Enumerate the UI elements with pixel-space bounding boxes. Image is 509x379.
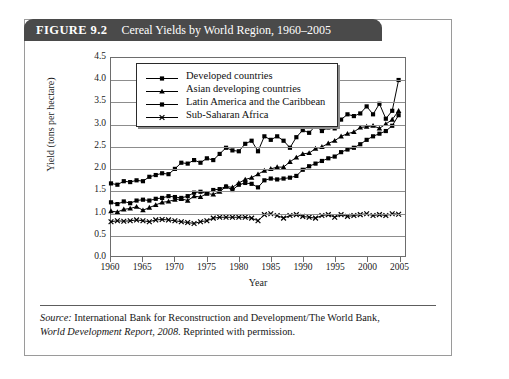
chart-area: Yield (tons per hectare) 4.54.03.53.02.5… — [24, 41, 452, 298]
x-tick-mark — [367, 257, 368, 262]
x-tick-mark — [303, 257, 304, 262]
y-tick-label: 3.0 — [80, 119, 106, 129]
legend-marker-triangle-icon — [145, 83, 179, 94]
legend-marker-square-icon — [145, 96, 179, 107]
gridline — [111, 169, 405, 170]
x-tick-label: 2005 — [380, 262, 420, 272]
x-tick-mark — [335, 257, 336, 262]
y-tick-label: 3.5 — [80, 96, 106, 106]
y-tick-label: 4.5 — [80, 52, 106, 62]
source-line-1: International Bank for Reconstruction an… — [72, 312, 380, 323]
y-tick-label: 1.0 — [80, 208, 106, 218]
gridline — [111, 191, 405, 192]
legend-item: Asian developing countries — [145, 82, 325, 95]
y-tick-label: 2.0 — [80, 163, 106, 173]
x-tick-mark — [207, 257, 208, 262]
gridline — [111, 236, 405, 237]
y-tick-label: 4.0 — [80, 74, 106, 84]
legend-label: Developed countries — [186, 70, 273, 81]
legend-label: Sub-Saharan Africa — [186, 109, 269, 120]
chart-legend: Developed countriesAsian developing coun… — [136, 63, 338, 127]
figure-title-bar: FIGURE 9.2 Cereal Yields by World Region… — [24, 19, 382, 41]
x-axis-label: Year — [110, 277, 406, 288]
x-tick-mark — [400, 257, 401, 262]
x-axis-tick-labels: 1960196519701975198019851990199520002005 — [110, 262, 406, 276]
x-tick-mark — [174, 257, 175, 262]
source-divider — [40, 305, 436, 306]
series-latin-america-and-the-caribbean — [109, 113, 401, 206]
source-report-title: World Development Report, 2008 — [40, 326, 178, 337]
y-axis-label: Yield (tons per hectare) — [45, 55, 56, 195]
source-note: Source: International Bank for Reconstru… — [40, 311, 440, 339]
legend-marker-diamond-icon — [145, 70, 179, 81]
legend-label: Latin America and the Caribbean — [186, 96, 325, 107]
source-lead: Source: — [40, 312, 72, 323]
x-tick-mark — [239, 257, 240, 262]
legend-item: Sub-Saharan Africa — [145, 108, 325, 121]
y-tick-label: 1.5 — [80, 185, 106, 195]
figure-title-text: Cereal Yields by World Region, 1960–2005 — [121, 23, 331, 38]
legend-label: Asian developing countries — [186, 83, 301, 94]
figure-number-label: FIGURE 9.2 — [36, 23, 107, 38]
gridline — [111, 147, 405, 148]
y-tick-label: 2.5 — [80, 141, 106, 151]
y-tick-label: 0.0 — [80, 252, 106, 262]
y-axis-tick-labels: 4.54.03.53.02.52.01.51.00.50.0 — [76, 57, 106, 257]
y-tick-label: 0.5 — [80, 230, 106, 240]
source-line-2: . Reprinted with permission. — [178, 326, 295, 337]
x-tick-mark — [110, 257, 111, 262]
legend-marker-cross-icon — [145, 109, 179, 120]
x-tick-mark — [142, 257, 143, 262]
legend-item: Latin America and the Caribbean — [145, 95, 325, 108]
x-tick-mark — [271, 257, 272, 262]
gridline — [111, 214, 405, 215]
legend-item: Developed countries — [145, 69, 325, 82]
